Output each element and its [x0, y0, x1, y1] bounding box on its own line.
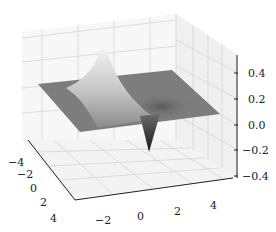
y-tick-labels: −2 0 2 4	[95, 199, 217, 227]
svg-text:0: 0	[30, 182, 37, 195]
svg-text:−0.2: −0.2	[242, 144, 269, 157]
svg-text:−2: −2	[17, 168, 33, 181]
svg-text:−0.4: −0.4	[242, 170, 269, 183]
svg-text:0.2: 0.2	[248, 93, 266, 106]
svg-text:0.4: 0.4	[248, 67, 266, 80]
svg-text:4: 4	[50, 212, 57, 225]
surface-plot: 0.4 0.2 0.0 −0.2 −0.4 −4 −2 0 2 4 −2 0 2…	[0, 0, 276, 232]
svg-text:0: 0	[137, 210, 144, 223]
svg-text:4: 4	[210, 199, 217, 212]
svg-text:2: 2	[174, 205, 181, 218]
svg-text:0.0: 0.0	[248, 119, 266, 132]
svg-text:−2: −2	[95, 214, 111, 227]
z-tick-labels: 0.4 0.2 0.0 −0.2 −0.4	[242, 67, 269, 183]
svg-text:2: 2	[40, 196, 47, 209]
